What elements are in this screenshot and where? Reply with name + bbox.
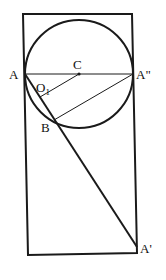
- label-a-prime: A': [140, 241, 152, 256]
- label-a: A: [9, 67, 19, 82]
- segment-a-a1: [25, 74, 137, 247]
- label-b: B: [41, 120, 50, 135]
- segment-a2-b: [54, 74, 133, 120]
- geometry-diagram: A C A" O1 B A': [0, 0, 166, 280]
- center-point-c: [77, 72, 80, 75]
- label-o1: O1: [36, 80, 50, 97]
- label-o1-subscript: 1: [45, 87, 50, 97]
- label-o1-main: O: [36, 80, 45, 95]
- label-c: C: [73, 57, 82, 72]
- label-a-double-prime: A": [136, 67, 151, 82]
